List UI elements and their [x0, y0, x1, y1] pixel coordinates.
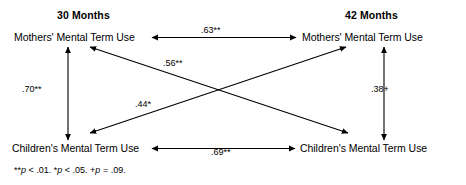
coefficient-label-mothers42-children42: .38+ — [371, 85, 389, 94]
figure-canvas: 30 Months 42 Months Mothers' Mental Term… — [0, 0, 466, 185]
footnote-part-4: = .09. — [100, 165, 125, 175]
coefficient-label-children30-mothers42: .44* — [135, 100, 151, 109]
node-mothers-mental-term-use-30-months: Mothers' Mental Term Use — [14, 32, 135, 43]
coefficient-label-mothers30-children30: .70** — [22, 85, 42, 94]
figure-text-layer: 30 Months 42 Months Mothers' Mental Term… — [0, 0, 466, 185]
column-header-30-months: 30 Months — [57, 10, 110, 21]
node-mothers-mental-term-use-42-months: Mothers' Mental Term Use — [302, 32, 423, 43]
coefficient-label-mothers30-mothers42: .63** — [201, 26, 221, 35]
footnote-part-1: ** — [14, 165, 21, 175]
node-childrens-mental-term-use-42-months: Children's Mental Term Use — [300, 143, 427, 154]
footnote-part-2: < .01. * — [26, 165, 57, 175]
node-childrens-mental-term-use-30-months: Children's Mental Term Use — [12, 143, 139, 154]
footnote-part-3: < .05. + — [62, 165, 95, 175]
coefficient-label-children30-children42: .69** — [211, 148, 231, 157]
significance-footnote: **p < .01. *p < .05. +p = .09. — [14, 165, 126, 175]
column-header-42-months: 42 Months — [345, 10, 398, 21]
coefficient-label-mothers30-children42: .56** — [163, 59, 183, 68]
